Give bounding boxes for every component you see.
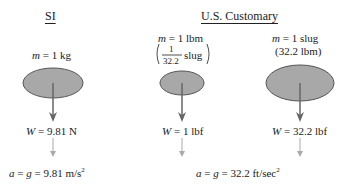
- si-weight-label: W = 9.81 N: [26, 125, 77, 137]
- weight-val: = 1 lbf: [171, 125, 203, 137]
- accel-val: = 32.2 ft/sec: [219, 167, 277, 179]
- si-mass-label: m = 1 kg: [32, 49, 71, 61]
- us-accel-label: a = g = 32.2 ft/sec2: [196, 164, 280, 179]
- lbm-frac-unit: slug: [184, 49, 202, 61]
- slug-weight-label: W = 32.2 lbf: [272, 125, 327, 137]
- mass-val: = 1 kg: [40, 49, 71, 61]
- lbm-weight-label: W = 1 lbf: [162, 125, 203, 137]
- weight-val: = 32.2 lbf: [281, 125, 327, 137]
- slug-mass-alt: (32.2 lbm): [275, 45, 321, 57]
- exponent: 2: [81, 166, 85, 174]
- accel-val: = 9.81 m/s: [32, 167, 82, 179]
- eq: =: [15, 167, 27, 179]
- mass-val: = 1 slug: [280, 32, 318, 44]
- eq: =: [202, 167, 214, 179]
- lbm-mass-label: m = 1 lbm: [158, 32, 203, 44]
- slug-mass-label: m = 1 slug: [272, 32, 318, 44]
- diagram-graphics: [0, 0, 345, 189]
- mass-val: = 1 lbm: [166, 32, 203, 44]
- weight-var: W: [162, 125, 171, 137]
- weight-var: W: [26, 125, 35, 137]
- lbm-accel-arrow-icon: [179, 151, 185, 157]
- lbm-frac-den: 32.2: [163, 56, 179, 66]
- heading-si: SI: [45, 10, 56, 22]
- weight-var: W: [272, 125, 281, 137]
- weight-val: = 9.81 N: [35, 125, 77, 137]
- slug-accel-arrow-icon: [297, 151, 303, 157]
- si-accel-label: a = g = 9.81 m/s2: [9, 164, 85, 179]
- mass-var: m: [32, 49, 40, 61]
- mass-var: m: [158, 32, 166, 44]
- mass-var: m: [272, 32, 280, 44]
- heading-us-customary: U.S. Customary: [201, 10, 278, 22]
- exponent: 2: [276, 166, 280, 174]
- si-accel-arrow-icon: [50, 151, 56, 157]
- lbm-frac-num: 1: [169, 44, 174, 54]
